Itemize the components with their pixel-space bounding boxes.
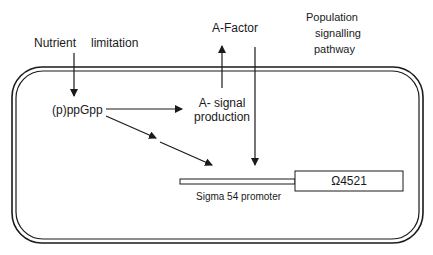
label-population-line3: pathway: [300, 41, 370, 57]
arrow-ppgpp-to-promoter-1: [106, 116, 156, 138]
label-nutrient: Nutrient: [34, 36, 76, 50]
label-a-factor: A-Factor: [212, 21, 258, 35]
label-population-pathway: Population signalling pathway: [300, 9, 370, 57]
label-ppgpp: (p)ppGpp: [52, 103, 103, 117]
promoter-bar: [180, 179, 295, 184]
label-a-signal-line2: production: [184, 110, 260, 124]
label-population-line1: Population: [300, 9, 370, 25]
label-population-line2: signalling: [300, 25, 370, 41]
label-a-signal: A- signal production: [184, 96, 260, 124]
label-a-signal-line1: A- signal: [184, 96, 260, 110]
label-gene: Ω4521: [295, 174, 403, 188]
arrow-ppgpp-to-promoter-2: [160, 142, 212, 165]
label-promoter: Sigma 54 promoter: [196, 191, 281, 203]
label-limitation: limitation: [91, 36, 138, 50]
